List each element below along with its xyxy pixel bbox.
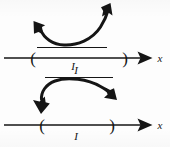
lower-interval-label: I: [73, 130, 79, 142]
upper-left-paren: (: [30, 49, 36, 68]
math-figure: ( ) I x I ( ) I x: [0, 0, 170, 147]
lower-right-paren: ): [109, 116, 115, 135]
upper-axis-label: x: [157, 52, 163, 64]
upper-curve-path: [41, 10, 109, 45]
lower-curve-path: [41, 79, 110, 100]
lower-top-interval-label: I: [73, 64, 79, 76]
lower-diagram: [4, 78, 153, 132]
lower-right-arrowhead-icon: [104, 88, 117, 100]
upper-diagram: [4, 3, 153, 65]
lower-left-paren: (: [39, 116, 45, 135]
figure-canvas: ( ) I x I ( ) I x: [0, 0, 170, 147]
upper-right-paren: ): [122, 49, 128, 68]
lower-axis-label: x: [157, 119, 163, 131]
